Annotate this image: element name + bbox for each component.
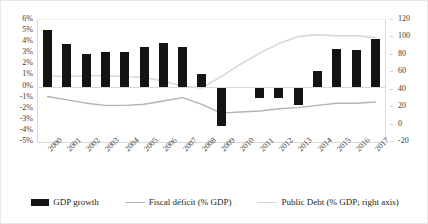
y-axis-left-tick: -2% (9, 104, 33, 112)
bar-2009 (217, 87, 226, 127)
y-axis-left-tick: 5% (9, 26, 33, 34)
y-axis-right-tick: 40 (398, 85, 422, 93)
bar-2006 (159, 43, 168, 86)
bar-2014 (313, 71, 322, 87)
y-axis-left-tick: 4% (9, 37, 33, 45)
legend-item-gdp-growth: GDP growth (31, 197, 98, 207)
bar-2008 (197, 74, 206, 86)
bar-2003 (101, 52, 110, 86)
y-axis-right-tick: 120 (398, 15, 422, 23)
legend-label: GDP growth (53, 197, 98, 207)
y-axis-right-tick: 60 (398, 67, 422, 75)
line-fiscal-d-ficit-gdp (48, 97, 376, 114)
bar-2011 (255, 87, 264, 98)
bar-2015 (332, 49, 341, 87)
bar-2002 (82, 54, 91, 86)
y-axis-left-tick: -5% (9, 137, 33, 145)
y-axis-left-tick: 0% (9, 82, 33, 90)
plot-area (37, 19, 386, 143)
y-axis-right-tickmark (390, 124, 393, 125)
bar-2005 (140, 47, 149, 87)
y-axis-left-tick: 3% (9, 48, 33, 56)
bar-2004 (120, 52, 129, 86)
legend-item-fiscal-deficit: Fiscal déficit (% GDP) (125, 197, 232, 207)
line-public-debt-gdp-right-axis (48, 35, 376, 88)
zero-baseline (38, 87, 385, 88)
y-axis-left-tick: -4% (9, 126, 33, 134)
legend-swatch-line-icon (125, 202, 145, 203)
chart-legend: GDP growth Fiscal déficit (% GDP) Public… (1, 193, 428, 211)
bar-2007 (178, 47, 187, 87)
y-axis-left-tick: 1% (9, 70, 33, 78)
bar-2000 (43, 30, 52, 87)
y-axis-right-tickmark (390, 36, 393, 37)
y-axis-right-tick: -20 (398, 137, 422, 145)
y-axis-left-tick: -1% (9, 93, 33, 101)
y-axis-left: 6%5%4%3%2%1%0%-1%-2%-3%-4%-5% (7, 19, 33, 143)
plot-inner (38, 20, 385, 142)
y-axis-right: 120100806040200-20 (390, 19, 420, 143)
y-axis-right-tick: 20 (398, 102, 422, 110)
y-axis-right-tick: 100 (398, 32, 422, 40)
y-axis-left-tick: -3% (9, 115, 33, 123)
y-axis-right-tickmark (390, 19, 393, 20)
y-axis-right-tick: 80 (398, 50, 422, 58)
legend-swatch-line-light-icon (257, 202, 277, 203)
y-axis-right-tick: 0 (398, 120, 422, 128)
y-axis-right-tickmark (390, 54, 393, 55)
y-axis-right-tickmark (390, 106, 393, 107)
bar-2017 (371, 39, 380, 87)
y-axis-left-tick: 2% (9, 59, 33, 67)
bar-2012 (274, 87, 283, 98)
chart-container: 6%5%4%3%2%1%0%-1%-2%-3%-4%-5% 1201008060… (0, 0, 428, 224)
bar-2016 (352, 50, 361, 87)
x-axis: 2000200120022003200420052006200720082009… (37, 145, 386, 189)
legend-label: Public Debt (% GDP; right axis) (281, 197, 398, 207)
legend-label: Fiscal déficit (% GDP) (149, 197, 232, 207)
bar-2001 (62, 44, 71, 86)
y-axis-right-tickmark (390, 89, 393, 90)
legend-swatch-bar-icon (31, 199, 49, 206)
legend-item-public-debt: Public Debt (% GDP; right axis) (257, 197, 398, 207)
bar-2013 (294, 87, 303, 106)
y-axis-left-tick: 6% (9, 15, 33, 23)
y-axis-right-tickmark (390, 71, 393, 72)
